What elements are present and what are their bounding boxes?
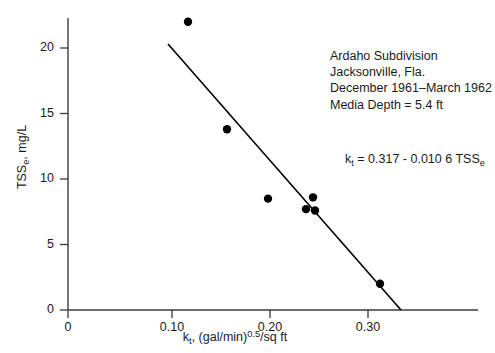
x-axis-ticks: [68, 310, 368, 318]
y-tick-label-5: 5: [14, 238, 54, 251]
data-point: [264, 194, 272, 202]
equation-body: = 0.317 - 0.010 6 TSS: [354, 152, 480, 166]
x-tick-label-0: 0: [38, 321, 98, 334]
annotation-line-date-range: December 1961–March 1962: [330, 80, 492, 96]
y-tick-label-20: 20: [14, 41, 54, 54]
data-point: [311, 206, 319, 214]
annotation-text-block: Ardaho Subdivision Jacksonville, Fla. De…: [330, 48, 492, 113]
x-axis-title-subscript: t: [189, 336, 192, 346]
y-axis-title-prefix: TSS: [15, 165, 29, 189]
data-point: [309, 193, 317, 201]
data-point: [302, 205, 310, 213]
annotation-line-subdivision: Ardaho Subdivision: [330, 48, 492, 64]
annotation-line-media-depth: Media Depth = 5.4 ft: [330, 97, 492, 113]
y-tick-label-0: 0: [14, 303, 54, 316]
x-axis-title-mid: , (gal/min): [192, 330, 248, 344]
x-axis-title: kt, (gal/min)0.5/sq ft: [100, 330, 370, 344]
data-point: [223, 125, 231, 133]
regression-equation-annotation: kt = 0.317 - 0.010 6 TSSe: [345, 152, 485, 166]
equation-trailing-subscript: e: [480, 158, 485, 168]
y-axis-title: TSSe, mg/L: [15, 102, 29, 212]
equation-lhs-subscript: t: [351, 158, 354, 168]
data-point: [184, 18, 192, 26]
x-axis-title-suffix: /sq ft: [260, 330, 287, 344]
x-axis-title-exponent: 0.5: [247, 329, 260, 339]
annotation-line-location: Jacksonville, Fla.: [330, 64, 492, 80]
data-point: [376, 280, 384, 288]
chart-figure: 0 5 10 15 20 0 0.10 0.20 0.30 TSSe, mg/L…: [0, 0, 495, 353]
y-axis-title-subscript: e: [21, 160, 31, 165]
y-axis-title-suffix: , mg/L: [15, 125, 29, 160]
y-axis-ticks: [60, 48, 68, 310]
